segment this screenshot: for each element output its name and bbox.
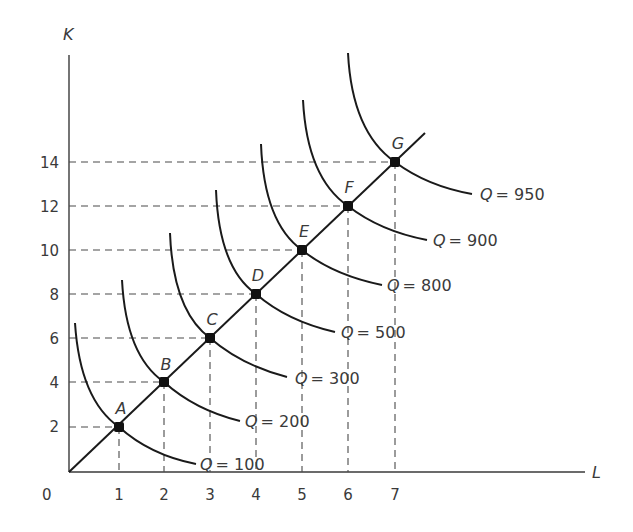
isoquant-q950	[348, 53, 472, 194]
point-label-b: B	[161, 355, 172, 374]
x-tick: 1	[114, 486, 124, 504]
isoquant-label-q950: Q= 950	[480, 185, 545, 204]
x-tick: 5	[297, 486, 307, 504]
isoquant-label-q900: Q= 900	[433, 231, 498, 250]
isoquant-label-q100: Q= 100	[200, 455, 265, 474]
isoquant-q800	[261, 144, 382, 285]
y-tick: 12	[40, 198, 59, 216]
point-label-c: C	[206, 310, 218, 329]
isoquant-curves	[75, 53, 472, 464]
isoquant-label-q800: Q= 800	[387, 276, 452, 295]
point-label-e: E	[299, 222, 310, 241]
y-tick: 8	[49, 286, 59, 304]
isoquant-q200	[122, 280, 240, 421]
point-labels: A B C D E F G	[115, 134, 405, 418]
x-axis-label: L	[592, 463, 601, 482]
y-tick: 6	[49, 330, 59, 348]
x-tick: 4	[251, 486, 261, 504]
y-axis-label: K	[63, 25, 75, 44]
isoquant-label-q200: Q= 200	[245, 412, 310, 431]
x-tick-labels: 1 2 3 4 5 6 7	[114, 486, 400, 504]
isoquant-label-q300: Q= 300	[295, 369, 360, 388]
x-tick: 6	[343, 486, 353, 504]
point-label-d: D	[252, 266, 264, 285]
isoquant-label-q500: Q= 500	[341, 323, 406, 342]
y-tick: 14	[40, 154, 59, 172]
isoquant-chart: K L 0 2 4 6 8 10 12 14 1 2 3 4 5 6 7	[0, 0, 633, 532]
x-tick: 7	[390, 486, 400, 504]
y-tick: 4	[49, 374, 59, 392]
x-tick: 3	[205, 486, 215, 504]
x-tick: 2	[159, 486, 169, 504]
point-label-g: G	[392, 134, 404, 153]
point-label-f: F	[344, 178, 354, 197]
y-tick: 2	[49, 418, 59, 436]
isoquant-labels: Q= 100 Q= 200 Q= 300 Q= 500 Q= 800 Q= 90…	[200, 185, 545, 474]
y-tick-labels: 2 4 6 8 10 12 14	[40, 154, 59, 436]
point-label-a: A	[115, 399, 127, 418]
y-tick: 10	[40, 242, 59, 260]
origin-label: 0	[42, 486, 52, 504]
